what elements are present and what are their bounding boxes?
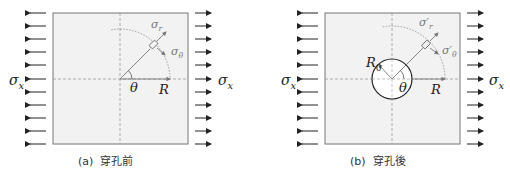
sigma-prime-r-label: σ′r xyxy=(419,17,433,31)
right-tension-arrows xyxy=(467,13,483,144)
right-tension-arrows xyxy=(195,13,211,144)
sigma-prime-theta-label: σ′θ xyxy=(442,45,457,59)
theta-label: θ xyxy=(130,81,138,94)
caption-a: (a) 穿孔前 xyxy=(78,152,133,168)
radius-label: R xyxy=(431,83,441,96)
radius-label: R xyxy=(159,83,169,96)
panel-a-drawing xyxy=(0,0,255,177)
sigma-x-left-label: σx xyxy=(9,73,24,91)
hole-radius-label: R0 xyxy=(366,56,382,73)
caption-b: (b) 穿孔後 xyxy=(350,152,406,168)
sigma-x-right-label: σx xyxy=(489,73,504,91)
sigma-r-label: σr xyxy=(151,19,162,33)
sigma-theta-label: σθ xyxy=(171,46,183,60)
panel-b-after-drilling: σx σx σ′r σ′θ R0 θ R (b) 穿孔後 xyxy=(255,0,510,177)
panel-a-before-drilling: σx σx σr σθ θ R (a) 穿孔前 xyxy=(0,0,255,177)
left-tension-arrows xyxy=(302,13,318,144)
left-tension-arrows xyxy=(30,13,46,144)
sigma-x-left-label: σx xyxy=(281,73,296,91)
theta-label: θ xyxy=(399,81,407,94)
sigma-x-right-label: σx xyxy=(218,73,233,91)
